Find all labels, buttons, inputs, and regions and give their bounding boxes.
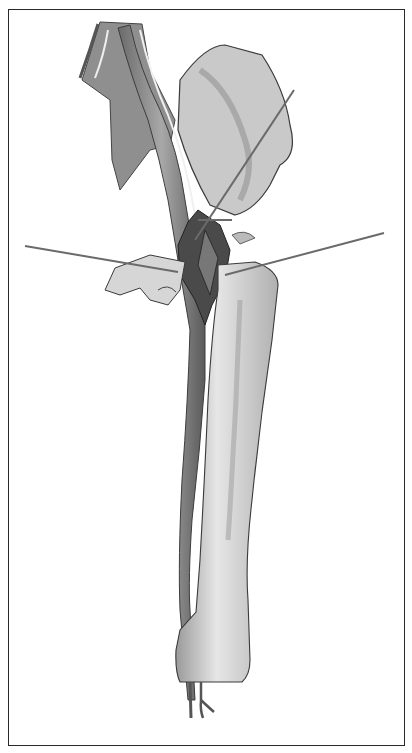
anatomical-illustration (0, 0, 412, 753)
bone-head (178, 45, 292, 215)
